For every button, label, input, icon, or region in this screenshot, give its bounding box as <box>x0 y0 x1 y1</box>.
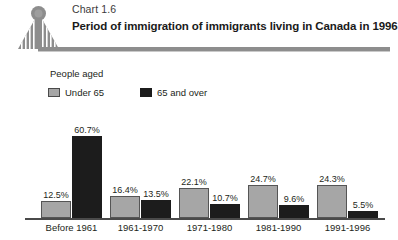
bar-rect-under-65 <box>317 185 347 218</box>
bar-value-label: 12.5% <box>43 190 69 200</box>
x-axis-tick-label: 1981-1990 <box>248 222 309 233</box>
bar-value-label: 24.7% <box>250 174 276 184</box>
x-axis-tick-label: 1971-1980 <box>179 222 240 233</box>
bar-value-label: 24.3% <box>319 174 345 184</box>
x-axis-tick-label: Before 1961 <box>41 222 102 233</box>
bar-rect-65-and-over <box>141 200 171 218</box>
x-axis-tick-label: 1961-1970 <box>110 222 171 233</box>
bar-rect-65-and-over <box>279 205 309 218</box>
bar-value-label: 5.5% <box>353 200 374 210</box>
bar-rect-65-and-over <box>348 211 378 218</box>
x-axis-line <box>25 218 385 220</box>
bar-rect-65-and-over <box>210 204 240 218</box>
bar-rect-under-65 <box>248 185 278 218</box>
bar-value-label: 13.5% <box>143 189 169 199</box>
bar-rect-under-65 <box>179 188 209 218</box>
bar-value-label: 22.1% <box>181 177 207 187</box>
x-axis-tick-label: 1991-1996 <box>317 222 378 233</box>
bar-rect-under-65 <box>110 196 140 218</box>
bar-rect-65-and-over <box>72 136 102 218</box>
bar-value-label: 16.4% <box>112 185 138 195</box>
bar-value-label: 9.6% <box>284 194 305 204</box>
bar-rect-under-65 <box>41 201 71 218</box>
bar-value-label: 10.7% <box>212 193 238 203</box>
bar-value-label: 60.7% <box>74 125 100 135</box>
